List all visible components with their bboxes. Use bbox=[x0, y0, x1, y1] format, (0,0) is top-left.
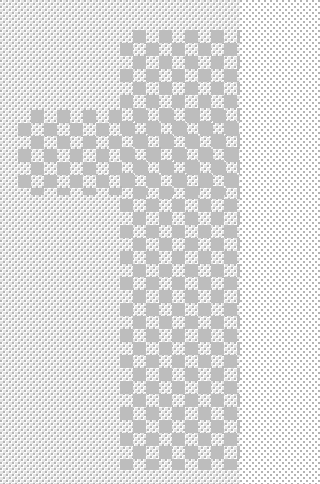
checker-horizontal-band bbox=[18, 110, 240, 195]
checker-vertical-band bbox=[120, 30, 240, 470]
